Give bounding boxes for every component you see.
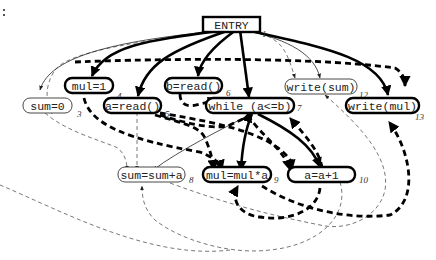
corner-mark	[3, 9, 5, 11]
node-while[interactable]: while (a<=b) 7	[206, 98, 302, 113]
node-mul-init-text: mul=1	[72, 80, 107, 93]
node-a-read-text: a=read()	[105, 100, 160, 113]
node-a-increment-text: a=a+1	[304, 169, 339, 182]
node-sum-update-label: 8	[189, 175, 194, 185]
node-b-read[interactable]: b=read() 6	[165, 78, 231, 98]
bold-dashed-edges	[75, 59, 409, 218]
dependence-graph: ENTRY 1 mul=1 4 sum=0 3 a=read() 5 b=rea…	[0, 0, 436, 260]
node-sum-init-text: sum=0	[30, 100, 65, 113]
node-entry-label: 1	[262, 29, 267, 39]
node-mul-update-label: 9	[274, 175, 279, 185]
node-mul-update[interactable]: mul=mul*a 9	[203, 167, 279, 185]
node-write-mul[interactable]: write(mul) 13	[346, 98, 425, 122]
node-a-increment[interactable]: a=a+1 10	[288, 167, 369, 185]
node-entry-text: ENTRY	[214, 19, 249, 32]
node-sum-init-label: 3	[76, 109, 82, 119]
node-write-mul-label: 13	[415, 112, 425, 122]
node-mul-update-text: mul=mul*a	[206, 169, 268, 182]
node-b-read-label: 6	[226, 88, 231, 98]
node-a-read-label: 5	[165, 109, 170, 119]
node-while-text: while (a<=b)	[209, 100, 292, 113]
corner-mark	[3, 14, 5, 16]
node-a-increment-label: 10	[359, 175, 369, 185]
node-write-sum-text: write(sum)	[286, 81, 355, 94]
node-sum-init[interactable]: sum=0 3	[23, 98, 82, 119]
node-b-read-text: b=read()	[166, 80, 221, 93]
node-while-label: 7	[297, 103, 302, 113]
node-sum-update-text: sum=sum+a	[120, 169, 182, 182]
node-write-mul-text: write(mul)	[348, 100, 417, 113]
node-sum-update[interactable]: sum=sum+a 8	[118, 167, 194, 185]
